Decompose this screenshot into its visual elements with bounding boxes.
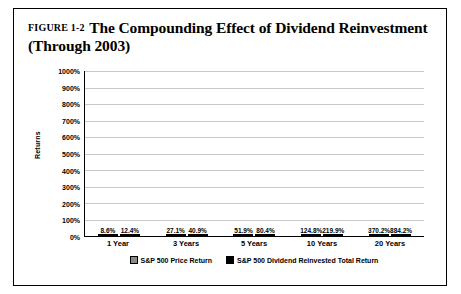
x-tick-label: 3 Years [152,239,220,248]
bar-price-return: 51.9% [233,234,253,236]
figure-frame: FIGURE 1-2 The Compounding Effect of Div… [13,8,447,286]
bar-value-label: 27.1% [166,227,184,234]
bar-group: 370.2% 884.2% [356,71,424,236]
figure-title: The Compounding Effect of Dividend Reinv… [28,19,428,54]
bar-value-label: 8.6% [100,227,115,234]
bar-slot-price: 51.9% [233,234,253,236]
bar-total-return: 884.2% [391,234,411,236]
x-tick-label: 1 Year [84,239,152,248]
bar-value-label: 40.9% [188,227,206,234]
bar-slot-price: 370.2% [369,234,389,236]
bar-slot-total: 219.9% [323,234,343,236]
bar-value-label: 370.2% [368,227,390,234]
y-tick-label: 0% [70,234,80,241]
bar-price-return: 124.8% [301,234,321,236]
y-tick-label: 300% [62,184,80,191]
bar-group: 8.6% 12.4% [85,71,153,236]
legend-label: S&P 500 Dividend Reinvested Total Return [237,257,378,264]
y-tick-label: 200% [62,200,80,207]
chart-container: Returns 1000% 900% 800% 700% 600% 500% 4… [36,71,428,273]
y-tick-label: 500% [62,151,80,158]
y-tick-label: 700% [62,117,80,124]
bar-value-label: 124.8% [300,227,322,234]
bar-price-return: 27.1% [166,234,186,236]
x-tick-label: 20 Years [356,239,424,248]
bar-slot-total: 884.2% [391,234,411,236]
bar-groups: 8.6% 12.4% 27.1% [85,71,424,236]
y-tick-label: 900% [62,84,80,91]
bar-total-return: 219.9% [323,234,343,236]
bar-slot-total: 12.4% [120,234,140,236]
y-tick-label: 1000% [58,68,80,75]
bar-price-return: 370.2% [369,234,389,236]
legend-swatch-icon [226,256,234,264]
bar-slot-price: 8.6% [98,234,118,236]
bar-value-label: 219.9% [322,227,344,234]
legend-swatch-icon [130,256,138,264]
bar-price-return: 8.6% [98,234,118,236]
x-axis-ticks: 1 Year 3 Years 5 Years 10 Years 20 Years [84,239,424,248]
bar-total-return: 80.4% [255,234,275,236]
y-tick-label: 600% [62,134,80,141]
legend-item-price-return: S&P 500 Price Return [130,256,212,264]
bar-value-label: 884.2% [390,227,412,234]
bar-total-return: 12.4% [120,234,140,236]
y-tick-label: 800% [62,101,80,108]
bar-value-label: 12.4% [121,227,139,234]
x-tick-label: 5 Years [220,239,288,248]
legend-label: S&P 500 Price Return [141,257,212,264]
bar-group: 51.9% 80.4% [221,71,289,236]
bar-group: 27.1% 40.9% [153,71,221,236]
y-tick-label: 100% [62,217,80,224]
figure-number: FIGURE 1-2 [28,22,85,33]
y-tick-label: 400% [62,167,80,174]
bar-group: 124.8% 219.9% [288,71,356,236]
chart-legend: S&P 500 Price Return S&P 500 Dividend Re… [84,256,424,264]
bar-slot-price: 124.8% [301,234,321,236]
y-axis-ticks: 1000% 900% 800% 700% 600% 500% 400% 300%… [48,71,82,237]
bar-slot-price: 27.1% [166,234,186,236]
bar-value-label: 51.9% [234,227,252,234]
bar-slot-total: 40.9% [188,234,208,236]
y-axis-label: Returns [34,131,41,159]
bar-value-label: 80.4% [256,227,274,234]
bar-slot-total: 80.4% [255,234,275,236]
bar-total-return: 40.9% [188,234,208,236]
figure-caption: FIGURE 1-2 The Compounding Effect of Div… [28,19,428,55]
x-tick-label: 10 Years [288,239,356,248]
legend-item-total-return: S&P 500 Dividend Reinvested Total Return [226,256,378,264]
plot-area: 8.6% 12.4% 27.1% [84,71,424,237]
